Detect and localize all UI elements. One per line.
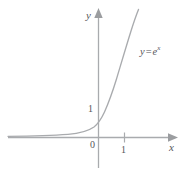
curve-equation-operator: = [145, 46, 153, 57]
x-axis-label: x [169, 142, 174, 153]
exponential-curve [8, 10, 139, 137]
curve-equation-label: y=ex [140, 45, 160, 57]
curve-equation-lhs: y [140, 46, 145, 57]
y-axis-tick-label-1: 1 [88, 104, 93, 114]
graph-canvas [0, 0, 191, 174]
exponential-function-figure: y x 0 1 1 y=ex [0, 0, 191, 174]
y-axis-arrowhead [94, 8, 102, 18]
x-axis-tick-label-1: 1 [121, 145, 126, 155]
origin-label: 0 [90, 140, 95, 150]
y-axis-label: y [86, 10, 91, 21]
curve-equation-exponent: x [157, 44, 160, 52]
